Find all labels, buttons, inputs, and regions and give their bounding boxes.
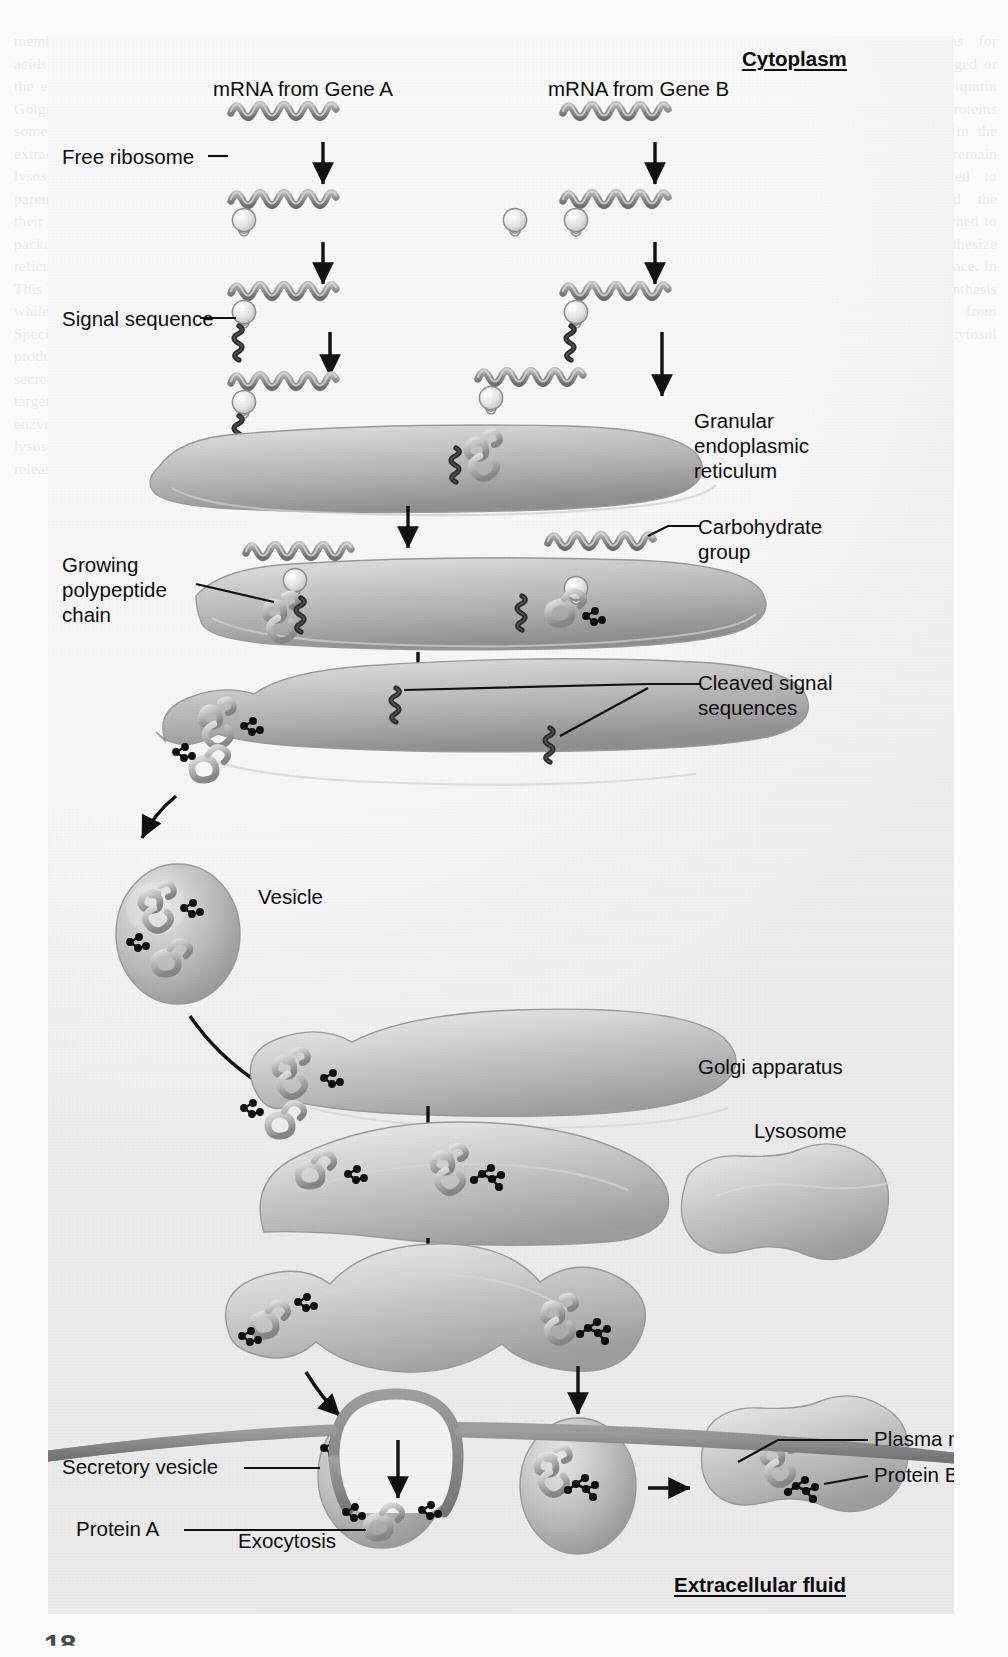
golgi-cisterna-3 [226,1244,646,1372]
label-cleaved-signal-sequences: Cleaved signal sequences [698,670,832,720]
granular-er-cisterna-2 [196,533,766,650]
label-free-ribosome: Free ribosome [62,144,194,169]
label-growing-polypeptide: Growing polypeptide chain [62,552,167,627]
lysosome-body-empty [681,1144,892,1260]
label-protein-a: Protein A [76,1516,159,1541]
label-lysosome: Lysosome [754,1118,847,1143]
figure-graphics [48,36,954,1614]
column-header-gene-a: mRNA from Gene A [213,76,393,101]
label-exocytosis: Exocytosis [238,1528,336,1553]
transport-vesicle-1 [116,864,240,1004]
gene-b-translation-steps [478,103,668,414]
region-label-cytoplasm: Cytoplasm [742,46,847,71]
label-granular-er: Granular endoplasmic reticulum [694,408,809,483]
label-secretory-vesicle: Secretory vesicle [62,1454,218,1479]
label-carbohydrate-group: Carbohydrate group [698,514,822,564]
label-protein-b: Protein B [874,1462,954,1487]
golgi-cisterna-1 [240,1009,736,1136]
gene-a-translation-steps [231,103,336,450]
label-vesicle: Vesicle [258,884,323,909]
column-header-gene-b: mRNA from Gene B [548,76,729,101]
label-plasma-membrane: Plasma membrane [874,1426,954,1451]
granular-er-cisterna-1 [150,425,716,515]
region-label-extracellular-fluid: Extracellular fluid [674,1572,846,1597]
leader-carbohydrate [648,526,700,536]
golgi-cisterna-2 [260,1122,668,1245]
label-signal-sequence: Signal sequence [62,306,214,331]
figure-panel: Cytoplasm mRNA from Gene A mRNA from Gen… [48,36,954,1614]
label-golgi-apparatus: Golgi apparatus [698,1054,843,1079]
